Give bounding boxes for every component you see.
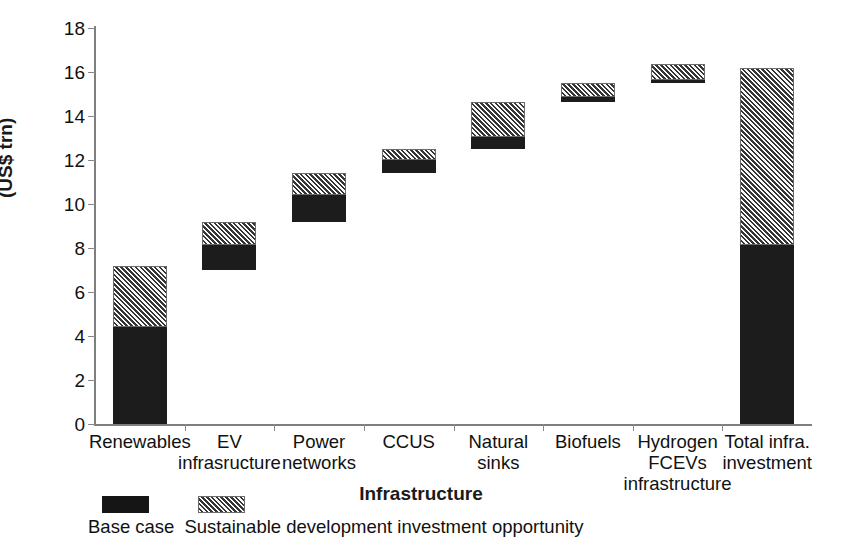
bar-segment-base-case <box>113 327 167 424</box>
legend-swatch-sustainable-development-icon <box>198 496 245 513</box>
x-axis-tick-mark <box>722 424 723 431</box>
y-axis-tick-label: 10 <box>64 195 85 214</box>
bar-segment-base-case <box>740 245 794 424</box>
y-axis-tick-label: 12 <box>64 151 85 170</box>
bar-total-infra-investment[interactable] <box>740 28 794 424</box>
y-axis-tick-label: 14 <box>64 107 85 126</box>
bar-natural-sinks[interactable] <box>471 28 525 424</box>
bar-hydrogen-fcevs-infrastructure[interactable] <box>651 28 705 424</box>
bar-segment-sustainable-development <box>561 83 615 97</box>
bar-segment-sustainable-development <box>113 266 167 328</box>
y-axis-tick-mark <box>88 116 95 117</box>
bar-segment-sustainable-development <box>202 222 256 245</box>
y-axis-tick-mark <box>88 28 95 29</box>
y-axis-tick-label: 2 <box>74 371 85 390</box>
x-axis-label-total-infra-investment: Total infra.investment <box>708 431 826 473</box>
y-axis-tick-mark <box>88 204 95 205</box>
bar-biofuels[interactable] <box>561 28 615 424</box>
x-axis-label-line: Total infra. <box>708 431 826 452</box>
y-axis-tick-label: 8 <box>74 239 85 258</box>
bar-segment-base-case <box>561 97 615 101</box>
x-axis-tick-mark <box>364 424 365 431</box>
y-axis-tick-label: 4 <box>74 327 85 346</box>
bar-segment-sustainable-development <box>292 173 346 195</box>
chart-legend: Base case Sustainable development invest… <box>88 496 583 538</box>
x-axis-label-line: investment <box>708 452 826 473</box>
bar-segment-sustainable-development <box>651 64 705 79</box>
x-axis-tick-mark <box>454 424 455 431</box>
y-axis-tick-label: 6 <box>74 283 85 302</box>
y-axis-tick-label: 16 <box>64 63 85 82</box>
legend-label-base-case: Base case <box>88 516 174 538</box>
y-axis-tick-label: 18 <box>64 19 85 38</box>
legend-swatch-base-case-icon <box>102 496 149 513</box>
bar-segment-base-case <box>382 160 436 173</box>
y-axis-tick-mark <box>88 380 95 381</box>
x-axis-label-line: sinks <box>440 452 558 473</box>
legend-label-sustainable-development: Sustainable development investment oppor… <box>184 516 583 538</box>
bar-segment-base-case <box>292 195 346 221</box>
x-axis-label-line: networks <box>260 452 378 473</box>
bar-ccus[interactable] <box>382 28 436 424</box>
y-axis-title: (US$ trn) <box>0 118 17 198</box>
bar-renewables[interactable] <box>113 28 167 424</box>
legend-item-sustainable-development: Sustainable development investment oppor… <box>184 496 583 538</box>
bar-power-networks[interactable] <box>292 28 346 424</box>
y-axis-tick-mark <box>88 424 95 425</box>
y-axis-tick-mark <box>88 292 95 293</box>
bar-segment-base-case <box>651 80 705 83</box>
chart-container: (US$ trn) 024681012141618 RenewablesEVin… <box>0 0 842 557</box>
bar-segment-base-case <box>202 245 256 270</box>
y-axis-tick-mark <box>88 248 95 249</box>
legend-item-base-case: Base case <box>88 496 174 538</box>
y-axis-tick-mark <box>88 336 95 337</box>
plot-area: 024681012141618 <box>95 28 812 424</box>
y-axis-tick-mark <box>88 160 95 161</box>
y-axis-tick-mark <box>88 72 95 73</box>
x-axis-tick-mark <box>185 424 186 431</box>
bar-ev-infrasructure[interactable] <box>202 28 256 424</box>
x-axis-tick-mark <box>274 424 275 431</box>
x-axis-tick-mark <box>543 424 544 431</box>
bar-segment-sustainable-development <box>740 68 794 245</box>
bar-segment-base-case <box>471 137 525 149</box>
bar-segment-sustainable-development <box>471 102 525 137</box>
x-axis-tick-mark <box>633 424 634 431</box>
bar-segment-sustainable-development <box>382 149 436 160</box>
